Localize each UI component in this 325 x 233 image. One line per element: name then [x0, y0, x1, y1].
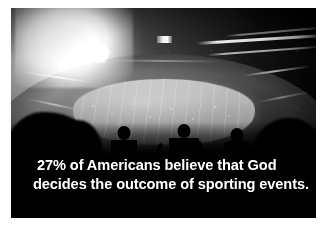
floodlight-glare: [15, 8, 133, 88]
caption-line-2: decides the outcome of sporting events.: [33, 175, 313, 194]
page-canvas: 27% of Americans believe that God decide…: [0, 0, 325, 233]
caption-line-1: 27% of Americans believe that God: [33, 156, 313, 175]
stadium-photograph: 27% of Americans believe that God decide…: [11, 8, 316, 218]
caption-text: 27% of Americans believe that God decide…: [33, 156, 313, 194]
spectator-head: [118, 126, 131, 140]
lens-flare-small: [63, 34, 75, 45]
spectator-head: [178, 124, 191, 138]
distant-scoreboard-light: [157, 36, 172, 43]
